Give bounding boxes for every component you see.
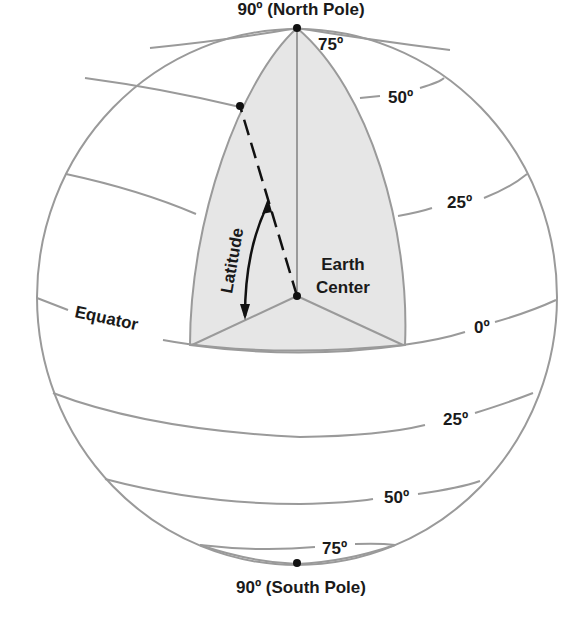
latitude-line-25s-left xyxy=(53,393,425,437)
latitude-diagram: 90º (North Pole) 90º (South Pole) 75º 50… xyxy=(0,0,585,619)
lat-50s-label: 50º xyxy=(384,488,409,507)
earth-center-label-line2: Center xyxy=(316,278,370,297)
latitude-line-75s-right xyxy=(355,544,395,545)
equator-label: Equator xyxy=(73,302,140,334)
latitude-line-25s-right xyxy=(475,393,533,413)
south-pole-label: 90º (South Pole) xyxy=(236,578,366,597)
latitude-line-50n-far-right xyxy=(420,78,444,88)
equator-line-left xyxy=(37,298,68,310)
lat-75s-label: 75º xyxy=(322,539,347,558)
earth-center-label-line1: Earth xyxy=(321,255,364,274)
lat-25s-label: 25º xyxy=(443,410,468,429)
earth-center-dot xyxy=(293,292,301,300)
north-pole-label: 90º (North Pole) xyxy=(237,0,364,19)
latitude-line-50n-left xyxy=(85,78,240,107)
south-pole-dot xyxy=(293,559,301,567)
lat-25n-label: 25º xyxy=(447,193,472,212)
lat-0-label: 0º xyxy=(474,318,490,337)
latitude-line-75s-left xyxy=(200,545,315,549)
latitude-line-50s-left xyxy=(105,479,373,504)
north-pole-dot xyxy=(293,24,301,32)
latitude-line-25n-right xyxy=(398,208,432,216)
latitude-line-50s-right xyxy=(418,481,480,494)
latitude-line-25n-far-right xyxy=(484,174,527,198)
lat-75n-label: 75º xyxy=(318,35,343,54)
lat-50n-label: 50º xyxy=(388,88,413,107)
surface-point-dot xyxy=(236,102,244,110)
equator-line-right xyxy=(495,300,556,322)
latitude-line-25n-left xyxy=(66,174,196,214)
latitude-line-50n-right xyxy=(360,96,380,98)
